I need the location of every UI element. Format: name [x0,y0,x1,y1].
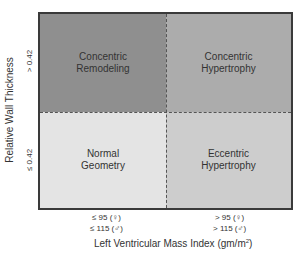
quadrant-concentric-hypertrophy: ConcentricHypertrophy [166,14,291,112]
x-tick-high: > 95 (♀) > 115 (♂) [213,212,246,234]
quadrant-label: Hypertrophy [201,63,255,75]
y-axis-title: Relative Wall Thickness [4,57,15,163]
quadrant-label: Eccentric [201,148,255,160]
quadrant-label: Concentric [76,51,129,63]
quadrant-concentric-remodeling: ConcentricRemodeling [40,14,166,112]
x-tick-male: ≤ 115 (♂) [90,223,123,234]
quadrant-label: Concentric [201,51,255,63]
y-tick-high: > 0.42 [25,50,34,72]
quadrant-label: Hypertrophy [201,160,255,172]
quadrant-normal-geometry: NormalGeometry [40,112,166,208]
vertical-divider [166,14,167,208]
quadrant-label: Normal [81,148,125,160]
quadrant-label: Remodeling [76,63,129,75]
x-axis-title: Left Ventricular Mass Index (gm/m2) [94,238,252,249]
x-axis-title-text: Left Ventricular Mass Index (gm/m [94,238,246,249]
x-axis-title-close: ) [249,238,252,249]
x-tick-low: ≤ 95 (♀) ≤ 115 (♂) [90,212,123,234]
x-tick-male: > 115 (♂) [213,223,246,234]
x-tick-female: > 95 (♀) [213,212,246,223]
classification-grid: ConcentricRemodeling ConcentricHypertrop… [38,12,293,210]
quadrant-label: Geometry [81,160,125,172]
y-tick-low: ≤ 0.42 [25,149,34,171]
quadrant-eccentric-hypertrophy: EccentricHypertrophy [166,112,291,208]
x-tick-female: ≤ 95 (♀) [90,212,123,223]
